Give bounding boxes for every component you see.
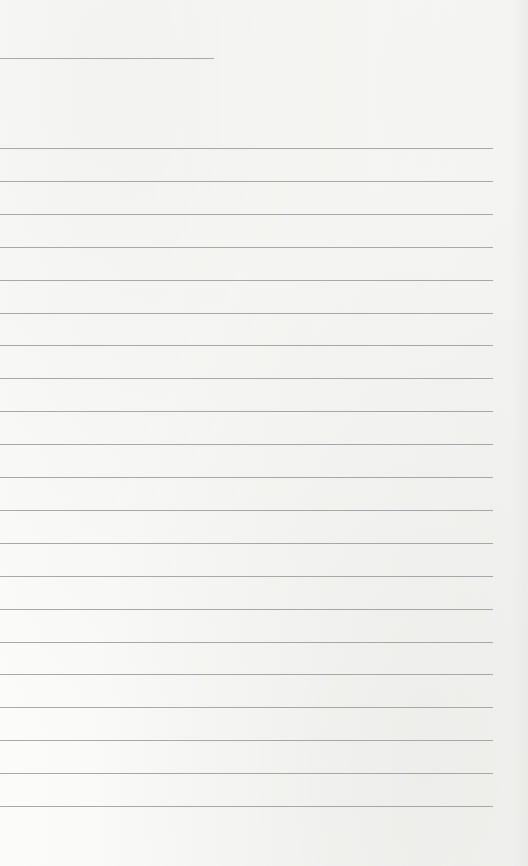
ruled-line [0, 609, 493, 610]
ruled-line [0, 148, 493, 149]
ruled-line [0, 378, 493, 379]
ruled-line [0, 345, 493, 346]
ruled-line [0, 313, 493, 314]
ruled-line [0, 576, 493, 577]
lined-paper [0, 0, 528, 866]
ruled-line [0, 214, 493, 215]
ruled-line [0, 280, 493, 281]
header-line [0, 58, 214, 59]
ruled-line [0, 477, 493, 478]
ruled-line [0, 510, 493, 511]
ruled-line [0, 806, 493, 807]
ruled-line [0, 543, 493, 544]
ruled-line [0, 247, 493, 248]
ruled-line [0, 740, 493, 741]
ruled-line [0, 674, 493, 675]
ruled-line [0, 707, 493, 708]
ruled-line [0, 773, 493, 774]
ruled-line [0, 181, 493, 182]
ruled-line [0, 411, 493, 412]
ruled-line [0, 642, 493, 643]
ruled-line [0, 444, 493, 445]
